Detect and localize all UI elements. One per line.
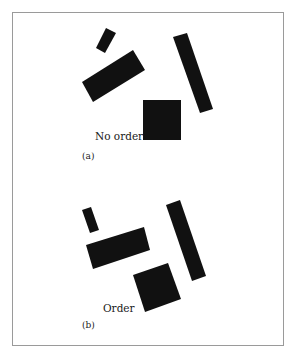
panel-a-wide-rectangle — [82, 50, 145, 102]
panel-b-label: (b) — [82, 320, 95, 330]
figure: No order (a) Order (b) — [0, 0, 294, 355]
panel-b: Order (b) — [82, 200, 206, 330]
panel-b-square — [133, 263, 181, 312]
panel-b-wide-rectangle — [86, 227, 150, 269]
panel-b-small-rectangle — [82, 207, 99, 233]
panel-b-caption: Order — [103, 302, 136, 314]
panel-a: No order (a) — [82, 28, 213, 161]
panel-b-tall-rectangle — [166, 200, 206, 281]
panel-a-square — [143, 100, 181, 140]
panel-a-small-rectangle — [96, 28, 116, 53]
panel-a-caption: No order — [95, 130, 144, 142]
panel-a-label: (a) — [82, 151, 94, 161]
